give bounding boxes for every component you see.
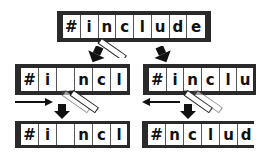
cell: d xyxy=(170,15,188,38)
down-arrow-icon xyxy=(180,104,196,120)
cell: i xyxy=(39,68,57,91)
cell: i xyxy=(81,15,99,38)
cell: i xyxy=(39,124,57,145)
left-arrow-icon xyxy=(142,98,180,106)
down-arrow-icon xyxy=(54,104,70,120)
cell: c xyxy=(202,68,220,91)
cell: c xyxy=(184,124,202,145)
down-arrow-icon xyxy=(153,46,173,64)
cell: l xyxy=(111,68,127,91)
cell: u xyxy=(220,124,238,145)
cell: l xyxy=(134,15,152,38)
down-arrow-icon xyxy=(86,46,106,64)
cell: n xyxy=(75,124,93,145)
cell: i xyxy=(167,68,185,91)
right-arrow-icon xyxy=(15,98,53,106)
cell: d xyxy=(238,124,254,145)
cell: c xyxy=(93,68,111,91)
cell: l xyxy=(111,124,127,145)
cell: l xyxy=(220,68,238,91)
cell xyxy=(57,124,75,145)
cell: n xyxy=(75,68,93,91)
cell: u xyxy=(237,68,253,91)
cell: # xyxy=(149,68,167,91)
cell: # xyxy=(148,124,166,145)
cell: l xyxy=(202,124,220,145)
cell: # xyxy=(63,15,81,38)
bottom-left-string-box: # i n c l xyxy=(15,121,130,148)
cell: # xyxy=(21,68,39,91)
cell: # xyxy=(21,124,39,145)
cell: n xyxy=(184,68,202,91)
cell: u xyxy=(152,15,170,38)
cell: c xyxy=(93,124,111,145)
top-string-box: # i n c l u d e xyxy=(57,11,211,42)
cell: n xyxy=(166,124,184,145)
bottom-right-string-box: # n c l u d xyxy=(142,121,254,148)
cell: c xyxy=(116,15,134,38)
cell: e xyxy=(187,15,205,38)
cell: n xyxy=(99,15,117,38)
cell xyxy=(57,68,75,91)
